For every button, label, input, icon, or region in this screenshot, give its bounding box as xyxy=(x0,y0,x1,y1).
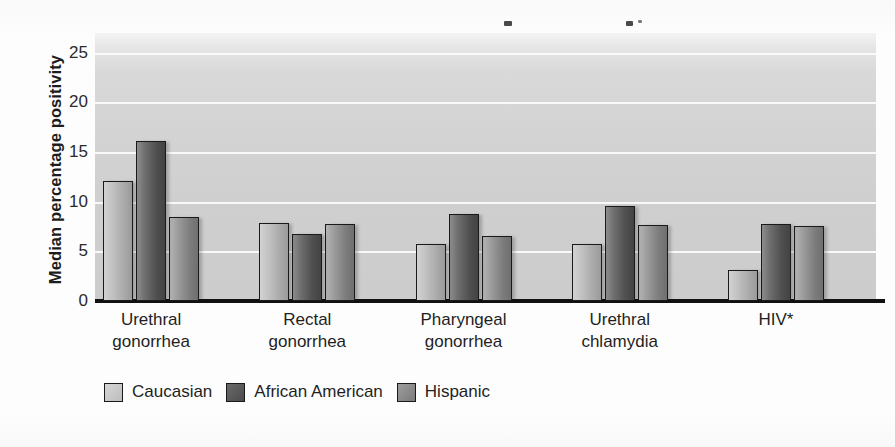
legend-label: Caucasian xyxy=(132,382,212,402)
legend-label: African American xyxy=(254,382,383,402)
legend-item: Hispanic xyxy=(397,382,490,402)
chart-legend: CaucasianAfrican AmericanHispanic xyxy=(104,382,490,402)
y-tick-label: 20 xyxy=(54,93,88,110)
legend-swatch xyxy=(226,383,245,402)
x-axis-label: Urethralchlamydia xyxy=(540,309,700,353)
bar-chart-figure: Median percentage positivity 0510152025 … xyxy=(0,0,895,447)
bar xyxy=(325,224,355,301)
y-tick-label: 10 xyxy=(54,193,88,210)
legend-swatch xyxy=(397,383,416,402)
bar xyxy=(572,244,602,301)
bar xyxy=(482,236,512,302)
x-axis-label-line: chlamydia xyxy=(540,331,700,353)
legend-item: Caucasian xyxy=(104,382,212,402)
x-axis-label-line: Urethral xyxy=(71,309,231,331)
y-tick-label: 5 xyxy=(54,242,88,259)
scan-artifact-speck xyxy=(638,20,642,23)
x-axis-label: HIV* xyxy=(696,309,856,331)
x-axis-label-line: Pharyngeal xyxy=(384,309,544,331)
x-axis-label-line: Urethral xyxy=(540,309,700,331)
x-axis-label-line: gonorrhea xyxy=(71,331,231,353)
bar xyxy=(136,141,166,301)
bar xyxy=(416,244,446,301)
y-tick-label: 0 xyxy=(54,292,88,309)
x-axis-label-line: gonorrhea xyxy=(227,331,387,353)
bar xyxy=(728,270,758,301)
scan-artifact-speck xyxy=(626,21,633,26)
bar xyxy=(169,217,199,301)
plot-area xyxy=(95,33,876,301)
legend-swatch xyxy=(104,383,123,402)
bar-series-container xyxy=(95,33,876,301)
bar xyxy=(638,225,668,301)
y-axis-tick-labels: 0510152025 xyxy=(52,0,88,447)
bar xyxy=(103,181,133,301)
x-axis-label-line: gonorrhea xyxy=(384,331,544,353)
bar xyxy=(794,226,824,301)
bar xyxy=(259,223,289,301)
legend-label: Hispanic xyxy=(425,382,490,402)
x-axis-label: Rectalgonorrhea xyxy=(227,309,387,353)
bar xyxy=(605,206,635,301)
bar xyxy=(761,224,791,301)
x-axis-label: Pharyngealgonorrhea xyxy=(384,309,544,353)
x-axis-category-labels: UrethralgonorrheaRectalgonorrheaPharynge… xyxy=(95,309,876,369)
y-tick-label: 25 xyxy=(54,44,88,61)
x-axis-label-line: HIV* xyxy=(696,309,856,331)
x-axis-label: Urethralgonorrhea xyxy=(71,309,231,353)
legend-item: African American xyxy=(226,382,383,402)
y-tick-label: 15 xyxy=(54,143,88,160)
scan-artifact-speck xyxy=(504,21,512,26)
bar xyxy=(292,234,322,301)
x-axis-label-line: Rectal xyxy=(227,309,387,331)
bar xyxy=(449,214,479,301)
